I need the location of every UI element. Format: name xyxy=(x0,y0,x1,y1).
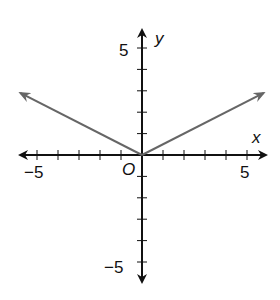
origin-label: O xyxy=(122,160,135,179)
graph-ray xyxy=(142,93,264,155)
graph-svg: y x 5 −5 −5 5 O xyxy=(0,0,280,300)
y-max-label: 5 xyxy=(119,41,128,60)
y-min-label: −5 xyxy=(104,258,123,277)
y-axis-label: y xyxy=(154,29,165,48)
x-min-label: −5 xyxy=(24,163,43,182)
x-axis-label: x xyxy=(251,128,261,147)
x-max-label: 5 xyxy=(240,163,249,182)
graph-ray xyxy=(20,93,142,155)
coordinate-plane: y x 5 −5 −5 5 O xyxy=(0,0,280,300)
